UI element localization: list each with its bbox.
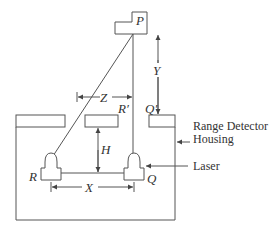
housing-top-middle-slab (85, 115, 118, 127)
label-x: X (84, 180, 94, 195)
range-detector-diagram: P Y Z R′ Q′ H R Q (0, 0, 280, 231)
laser-q: Q (124, 153, 157, 186)
housing-annotation: Range Detector Housing (177, 119, 268, 146)
label-r-prime: R′ (117, 101, 129, 116)
label-q-prime: Q′ (145, 101, 157, 116)
label-r: R (28, 169, 37, 184)
laser-annotation: Laser (146, 159, 220, 173)
label-q: Q (147, 171, 157, 186)
range-detector-housing (16, 115, 175, 220)
dimension-h: H (98, 128, 111, 172)
detector-r: R (28, 153, 61, 184)
label-p: P (135, 13, 144, 28)
laser-label: Laser (193, 159, 220, 173)
housing-top-right-slab (149, 115, 175, 127)
housing-label-line1: Range Detector (193, 119, 268, 133)
label-z: Z (100, 90, 108, 105)
dimension-x: X (51, 180, 134, 195)
target-object-p: P (115, 12, 147, 34)
reflected-beam-line (53, 34, 133, 156)
housing-top-left-slab (16, 115, 65, 127)
label-h: H (100, 142, 111, 157)
housing-label-line2: Housing (193, 132, 234, 146)
